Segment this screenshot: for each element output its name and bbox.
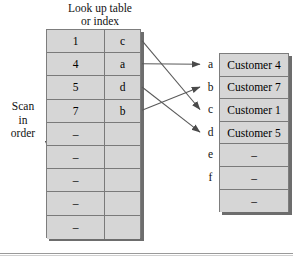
lookup-table-row: – — [47, 146, 140, 169]
lookup-table-row: 1c — [47, 30, 140, 53]
lookup-key-cell: – — [47, 216, 105, 239]
scan-order-line-2: in — [2, 114, 44, 128]
lookup-pointer-cell — [105, 169, 140, 191]
customer-row: – — [220, 144, 288, 167]
lookup-key-cell: 7 — [47, 100, 105, 122]
customer-row: Customer 5 — [220, 122, 288, 145]
lookup-pointer-cell: d — [105, 76, 140, 98]
figure-title-line-2: or index — [45, 15, 155, 28]
lookup-table-row: 4a — [47, 53, 140, 76]
data-row-letter: b — [205, 81, 216, 93]
pointer-arrow — [142, 87, 200, 132]
lookup-key-cell: 1 — [47, 30, 105, 52]
figure-bottom-rule — [0, 253, 293, 254]
lookup-key-cell: – — [47, 169, 105, 191]
data-row-letter: e — [205, 148, 216, 160]
figure-title: Look up table or index — [45, 2, 155, 28]
data-row-letter: d — [205, 126, 216, 138]
customer-row: Customer 4 — [220, 54, 288, 77]
lookup-table-row: 5d — [47, 76, 140, 99]
customer-row: Customer 7 — [220, 77, 288, 100]
lookup-pointer-cell — [105, 192, 140, 214]
lookup-pointer-cell: b — [105, 100, 140, 122]
lookup-key-cell: – — [47, 123, 105, 145]
data-row-letter: c — [205, 103, 216, 115]
data-row-letter: f — [205, 171, 216, 183]
figure-bottom-rule-secondary — [0, 255, 293, 256]
pointer-arrow — [142, 87, 200, 110]
lookup-key-cell: – — [47, 146, 105, 168]
scan-order-line-1: Scan — [2, 100, 44, 114]
lookup-table-row: 7b — [47, 100, 140, 123]
lookup-table: 1c4a5d7b––––– — [46, 29, 141, 238]
customer-row: Customer 1 — [220, 99, 288, 122]
pointer-arrow — [142, 41, 200, 110]
lookup-pointer-cell — [105, 146, 140, 168]
customer-row: – — [220, 167, 288, 190]
lookup-pointer-cell — [105, 216, 140, 239]
pointer-arrow — [142, 64, 200, 65]
lookup-table-row: – — [47, 192, 140, 215]
customer-data-table: Customer 4Customer 7Customer 1Customer 5… — [219, 53, 289, 212]
data-row-letter: a — [205, 58, 216, 70]
figure-title-line-1: Look up table — [45, 2, 155, 15]
scan-order-label: Scan in order — [2, 100, 44, 141]
lookup-pointer-cell: c — [105, 30, 140, 52]
lookup-table-row: – — [47, 123, 140, 146]
lookup-table-row: – — [47, 169, 140, 192]
lookup-pointer-cell: a — [105, 53, 140, 75]
lookup-key-cell: 4 — [47, 53, 105, 75]
lookup-index-diagram: Look up table or index Scan in order 1c4… — [0, 0, 293, 262]
lookup-pointer-cell — [105, 123, 140, 145]
scan-order-line-3: order — [2, 127, 44, 141]
lookup-key-cell: 5 — [47, 76, 105, 98]
lookup-table-row: – — [47, 216, 140, 239]
customer-row: – — [220, 190, 288, 213]
lookup-key-cell: – — [47, 192, 105, 214]
